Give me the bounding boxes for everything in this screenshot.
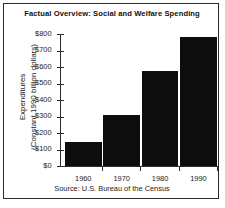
y-tick: $500 <box>57 84 64 85</box>
x-tick <box>217 166 218 171</box>
y-tick-label: $200 <box>35 128 51 137</box>
source-note: Source: U.S. Bureau of the Census <box>4 184 219 193</box>
y-axis-label: Expenditures (Constant 1990 billion doll… <box>6 22 32 172</box>
bar <box>65 142 102 166</box>
y-tick: $400 <box>57 100 64 101</box>
x-tick <box>102 166 103 171</box>
x-axis-line <box>60 166 217 167</box>
x-tick-label: 1990 <box>178 174 218 183</box>
x-tick <box>140 166 141 171</box>
y-tick: $700 <box>57 51 64 52</box>
y-tick-label: $800 <box>35 29 51 38</box>
y-tick: $100 <box>57 150 64 151</box>
y-tick-label: $500 <box>35 78 51 87</box>
y-tick: $0 <box>57 166 64 167</box>
y-tick-label: $0 <box>43 161 51 170</box>
y-tick-label: $100 <box>35 144 51 153</box>
y-tick-label: $700 <box>35 45 51 54</box>
x-tick-label: 1960 <box>63 174 103 183</box>
chart-title: Factual Overview: Social and Welfare Spe… <box>4 9 219 18</box>
x-tick-label: 1980 <box>140 174 180 183</box>
bar <box>142 71 179 166</box>
y-tick: $300 <box>57 117 64 118</box>
y-tick-label: $400 <box>35 95 51 104</box>
y-tick: $200 <box>57 133 64 134</box>
x-tick-label: 1970 <box>102 174 142 183</box>
y-tick-label: $300 <box>35 111 51 120</box>
y-tick: $800 <box>57 34 64 35</box>
bar <box>103 115 140 166</box>
y-tick-label: $600 <box>35 62 51 71</box>
x-tick <box>179 166 180 171</box>
chart-figure: Factual Overview: Social and Welfare Spe… <box>3 3 219 199</box>
y-tick: $600 <box>57 67 64 68</box>
plot-area: $0$100$200$300$400$500$600$700$800 19601… <box>60 34 216 166</box>
bar <box>180 37 217 166</box>
